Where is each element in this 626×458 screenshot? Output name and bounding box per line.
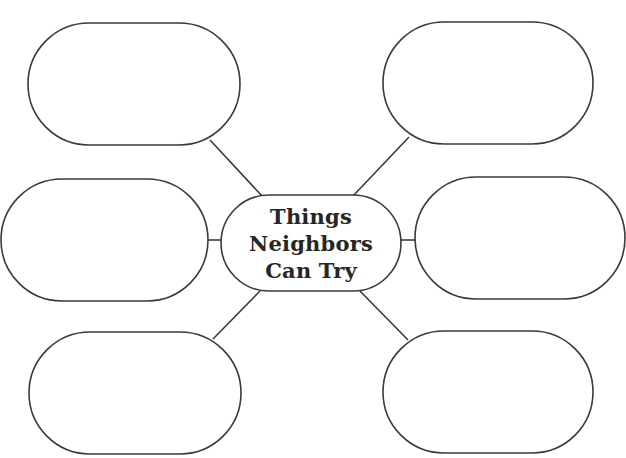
branch-box-middle-right[interactable] (415, 177, 625, 299)
branch-box-bottom-right[interactable] (383, 331, 593, 453)
connector-bottom-left (213, 291, 260, 339)
center-topic-line-1: Things (270, 203, 352, 230)
center-topic-line-3: Can Try (265, 257, 357, 284)
center-topic: Things Neighbors Can Try (221, 195, 401, 291)
center-topic-line-2: Neighbors (249, 230, 373, 257)
branch-box-middle-left[interactable] (1, 179, 208, 301)
branch-box-top-left[interactable] (28, 23, 240, 145)
connector-top-left (210, 140, 263, 197)
connector-bottom-right (360, 291, 408, 340)
branch-box-top-right[interactable] (383, 22, 593, 144)
connector-top-right (353, 137, 409, 196)
branch-box-bottom-left[interactable] (29, 332, 241, 454)
